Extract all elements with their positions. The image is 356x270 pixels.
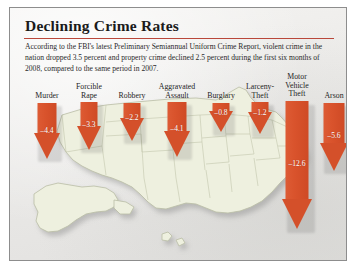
infographic-root: Declining Crime Rates According to the F… [0, 0, 356, 270]
intro-paragraph: According to the FBI's latest Preliminar… [25, 41, 337, 75]
arrow-forcible-rape: –3.3 [77, 102, 101, 150]
arrow-value-arson: –5.6 [320, 131, 347, 140]
crime-item-motor-vehicle-theft: Motor Vehicle Theft –12.6 [276, 73, 318, 229]
title-divider [24, 38, 334, 39]
crime-label-aggravated-assault: Aggravated Assault [152, 83, 202, 100]
arrow-value-larceny-theft: –1.2 [248, 108, 272, 117]
crime-label-motor-vehicle-theft: Motor Vehicle Theft [276, 73, 318, 99]
arrow-arson: –5.6 [320, 103, 347, 171]
crime-item-robbery: Robbery –2.2 [110, 92, 154, 141]
arrow-value-aggravated-assault: –4.1 [164, 124, 190, 133]
arrow-value-robbery: –2.2 [120, 113, 144, 122]
arrow-murder: –4.4 [34, 103, 60, 159]
crime-label-burglary: Burglary [200, 92, 242, 101]
arrow-burglary: –0.8 [209, 103, 233, 133]
crime-label-forcible-rape: Forcible Rape [67, 83, 111, 100]
crime-label-robbery: Robbery [110, 92, 154, 101]
arrow-motor-vehicle-theft: –12.6 [282, 101, 312, 229]
arrow-value-motor-vehicle-theft: –12.6 [282, 159, 312, 168]
arrow-larceny-theft: –1.2 [248, 102, 272, 135]
crime-item-forcible-rape: Forcible Rape –3.3 [67, 83, 111, 150]
crime-label-murder: Murder [26, 92, 68, 101]
crime-item-burglary: Burglary –0.8 [200, 92, 242, 133]
crime-item-murder: Murder –4.4 [26, 92, 68, 159]
crime-item-aggravated-assault: Aggravated Assault –4.1 [152, 83, 202, 157]
arrow-value-murder: –4.4 [34, 126, 60, 135]
crime-item-arson: Arson –5.6 [316, 92, 347, 171]
arrow-value-burglary: –0.8 [209, 108, 233, 117]
crime-label-arson: Arson [316, 92, 347, 101]
arrow-robbery: –2.2 [120, 103, 144, 141]
infographic-panel: Declining Crime Rates According to the F… [9, 7, 347, 261]
arrow-aggravated-assault: –4.1 [164, 102, 190, 157]
page-title: Declining Crime Rates [25, 17, 179, 35]
arrow-value-forcible-rape: –3.3 [77, 120, 101, 129]
